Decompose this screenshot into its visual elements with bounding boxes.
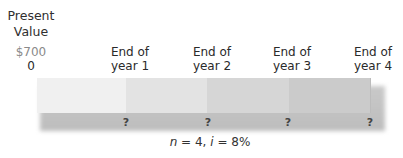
period-label-line1: End of: [257, 45, 327, 59]
period-zero-label: 0: [0, 59, 62, 73]
period-label-year-3: End of year 3: [257, 45, 327, 73]
timeline-segment-year-2: [126, 78, 207, 113]
cash-flow-unknown-year-2: ?: [202, 116, 214, 129]
period-label-line1: End of: [177, 45, 247, 59]
timeline-bar: [37, 78, 370, 113]
period-label-year-4: End of year 4: [338, 45, 403, 73]
parameters-caption: n = 4, i = 8%: [150, 135, 270, 149]
period-label-year-1: End of year 1: [95, 45, 165, 73]
period-label-line2: year 2: [177, 59, 247, 73]
i-value: = 8%: [214, 135, 251, 149]
present-value-title-line2: Value: [14, 24, 48, 39]
n-value: = 4,: [177, 135, 210, 149]
present-value-title-line1: Present: [8, 8, 55, 23]
period-label-line2: year 4: [338, 59, 403, 73]
period-label-line2: year 3: [257, 59, 327, 73]
period-label-line1: End of: [95, 45, 165, 59]
cash-flow-unknown-year-1: ?: [120, 116, 132, 129]
cash-flow-unknown-year-4: ?: [364, 116, 376, 129]
period-label-line2: year 1: [95, 59, 165, 73]
cash-flow-unknown-year-3: ?: [282, 116, 294, 129]
timeline-segment-year-4: [289, 78, 371, 113]
present-value-label: Present Value: [0, 8, 62, 40]
timeline-segment-year-3: [207, 78, 289, 113]
period-label-year-2: End of year 2: [177, 45, 247, 73]
timeline-segment-year-1: [37, 78, 126, 113]
present-value-amount: $700: [0, 45, 62, 59]
period-label-line1: End of: [338, 45, 403, 59]
